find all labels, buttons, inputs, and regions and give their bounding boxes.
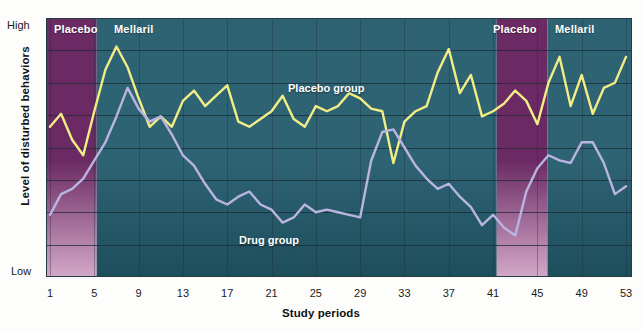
band-label-placebo-1: Placebo xyxy=(54,23,98,35)
x-tick-label: 29 xyxy=(354,287,366,299)
x-tick-label: 9 xyxy=(136,287,142,299)
band-placebo-2 xyxy=(497,18,548,277)
x-tick-label: 37 xyxy=(443,287,455,299)
y-axis-low-label: Low xyxy=(11,265,31,277)
chart-figure: Level of disturbed behaviors High Low Pl… xyxy=(0,0,642,331)
chart-canvas xyxy=(46,18,632,277)
y-axis-high-label: High xyxy=(7,19,30,31)
band-label-mellaril-2: Mellaril xyxy=(555,23,595,35)
x-tick-label: 5 xyxy=(91,287,97,299)
x-tick-label: 21 xyxy=(265,287,277,299)
x-tick-label: 33 xyxy=(398,287,410,299)
x-tick-label: 45 xyxy=(531,287,543,299)
series-label-placebo-group: Placebo group xyxy=(288,82,364,94)
band-label-mellaril-1: Mellaril xyxy=(114,23,154,35)
x-tick-label: 17 xyxy=(221,287,233,299)
band-placebo-0 xyxy=(46,18,97,277)
x-axis-title: Study periods xyxy=(0,307,642,319)
x-tick-label: 53 xyxy=(620,287,632,299)
plot-area xyxy=(46,18,632,277)
x-tick-label: 49 xyxy=(576,287,588,299)
x-tick-label: 1 xyxy=(47,287,53,299)
series-label-drug-group: Drug group xyxy=(239,234,299,246)
x-tick-label: 25 xyxy=(310,287,322,299)
x-tick-label: 41 xyxy=(487,287,499,299)
band-label-placebo-2: Placebo xyxy=(493,23,537,35)
x-tick-label: 13 xyxy=(177,287,189,299)
y-axis-title: Level of disturbed behaviors xyxy=(19,6,37,246)
